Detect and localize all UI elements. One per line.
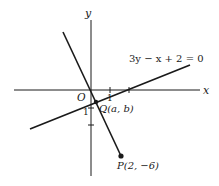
x-axis-label: x [203, 84, 210, 97]
y-axis-label: y [84, 7, 92, 20]
coordinate-diagram: y x O 1 1 3y − x + 2 = 0 Q(a, b) P(2, −6… [0, 0, 219, 186]
given-line-equation: 3y − x + 2 = 0 [129, 53, 204, 64]
point-q-label: Q(a, b) [99, 103, 134, 114]
origin-label: O [77, 91, 86, 103]
x-tick-label: 1 [107, 93, 113, 103]
point-q [94, 100, 98, 104]
y-tick-label: 1 [83, 107, 89, 117]
point-p-label: P(2, −6) [116, 160, 159, 171]
point-p [118, 153, 123, 158]
